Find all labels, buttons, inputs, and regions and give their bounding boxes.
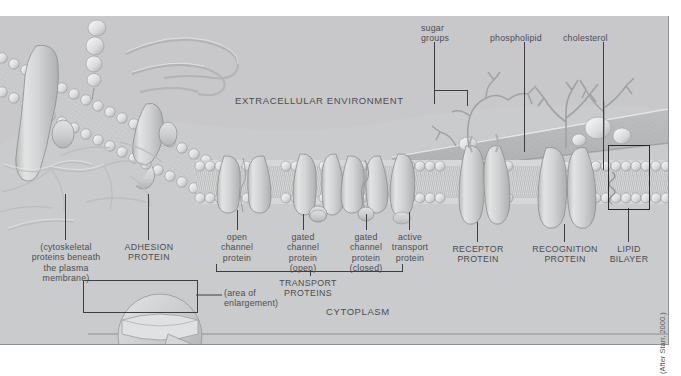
lipid-bilayer-line2: BILAYER [600,254,658,264]
leader-adhesion [148,194,149,240]
gated-open-line2: channel [273,242,333,252]
gated-closed-line4: (closed) [336,263,396,273]
active-transport-line1: active [379,232,441,242]
open-channel-line1: open [207,232,267,242]
lipid-bilayer-box [608,145,650,210]
gated-channel-open-label: gated channel protein (open) [273,232,333,274]
area-of-enlargement-label: (area of enlargement) [224,288,278,309]
adhesion-line1: ADHESION [104,242,194,252]
gated-open-line4: (open) [273,263,333,273]
lipid-bilayer-label: LIPID BILAYER [600,244,658,265]
leader-sugar-groups-h [434,90,468,91]
open-channel-line3: protein [207,253,267,263]
gated-open-line1: gated [273,232,333,242]
open-channel-protein-label: open channel protein [207,232,267,263]
leader-active-transport [409,212,410,230]
leader-gated-open [303,214,304,230]
adhesion-line2: PROTEIN [104,252,194,262]
gated-open-line3: protein [273,253,333,263]
lipid-bilayer-line1: LIPID [600,244,658,254]
area-enlargement-line1: (area of [224,288,278,298]
sugar-groups-line1: sugar [421,23,449,33]
receptor-protein-label: RECEPTOR PROTEIN [441,244,515,265]
leader-sugar-groups [434,42,435,104]
open-channel-line2: channel [207,242,267,252]
recognition-protein-label: RECOGNITION PROTEIN [519,244,611,265]
receptor-line2: PROTEIN [441,254,515,264]
receptor-line1: RECEPTOR [441,244,515,254]
area-enlargement-line2: enlargement) [224,298,278,308]
leader-lipid-bilayer [628,208,629,242]
extracellular-environment-label: EXTRACELLULAR ENVIRONMENT [235,95,404,106]
membrane-figure: EXTRACELLULAR ENVIRONMENT CYTOPLASM suga… [0,0,681,376]
phospholipid-label: phospholipid [490,33,542,43]
illustration-panel: EXTRACELLULAR ENVIRONMENT CYTOPLASM suga… [0,16,669,345]
active-transport-line2: transport [379,242,441,252]
sugar-groups-line2: groups [421,33,449,43]
leader-recognition [564,224,565,242]
active-transport-protein-label: active transport protein [379,232,441,263]
adhesion-protein-label: ADHESION PROTEIN [104,242,194,263]
attribution-text: (After Starr, 2000.) [658,312,667,374]
area-of-enlargement-box [83,280,198,313]
leader-open-channel [237,210,238,230]
transport-group-line1: TRANSPORT [258,278,358,288]
leader-cholesterol [603,42,604,170]
sugar-groups-label: sugar groups [421,23,449,44]
recognition-line2: PROTEIN [519,254,611,264]
leader-phospholipid [524,42,525,152]
leader-cytoskeletal [65,194,66,240]
cytoskeletal-line4: membrane) [6,273,126,283]
leader-receptor [477,222,478,242]
cytoskeletal-line3: the plasma [6,263,126,273]
leader-gated-closed [366,214,367,230]
cholesterol-label: cholesterol [563,33,608,43]
cytoplasm-label: CYTOPLASM [326,306,390,317]
leader-sugar-groups-v2 [467,90,468,106]
recognition-line1: RECOGNITION [519,244,611,254]
active-transport-line3: protein [379,253,441,263]
attribution-block: (After Starr, 2000.) [667,288,679,374]
